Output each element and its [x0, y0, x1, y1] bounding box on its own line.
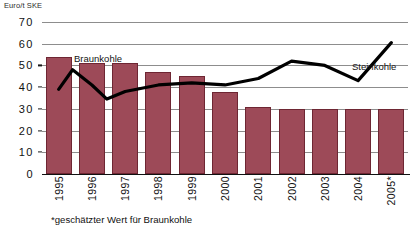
chart-container: Euro/t SKE 010203040506070 Braunkohle St… [0, 0, 415, 231]
y-tick-label-0: 0 [4, 168, 34, 180]
annotation-steinkohle: Steinkohle [352, 61, 396, 72]
y-tick-label-20: 20 [4, 125, 34, 137]
x-tick-label-2002: 2002 [286, 176, 298, 201]
annotation-braunkohle: Braunkohle [74, 53, 122, 64]
y-axis-unit-label: Euro/t SKE [4, 1, 42, 10]
x-axis-labels: 1995199619971998199920002001200220032004… [42, 176, 408, 210]
x-tick-label-2001: 2001 [252, 176, 264, 201]
x-tick-label-2004: 2004 [352, 176, 364, 201]
x-tick-label-1995: 1995 [53, 176, 65, 201]
y-tick-label-40: 40 [4, 81, 34, 93]
y-tick-label-60: 60 [4, 38, 34, 50]
x-axis-baseline [42, 174, 410, 176]
x-tick-label-1999: 1999 [186, 176, 198, 201]
chart-footnote: *geschätzter Wert für Braunkohle [51, 214, 192, 225]
x-tick-label-1996: 1996 [86, 176, 98, 201]
y-tick-label-30: 30 [4, 103, 34, 115]
y-tick-label-50: 50 [4, 59, 34, 71]
x-tick-label-1997: 1997 [119, 176, 131, 201]
y-tick-label-70: 70 [4, 16, 34, 28]
line-series-steinkohle [42, 22, 408, 174]
plot-area [42, 22, 408, 174]
x-tick-label-2005: 2005* [385, 176, 397, 205]
y-tick-label-10: 10 [4, 146, 34, 158]
x-tick-label-1998: 1998 [152, 176, 164, 201]
x-tick-label-2000: 2000 [219, 176, 231, 201]
x-tick-label-2003: 2003 [319, 176, 331, 201]
